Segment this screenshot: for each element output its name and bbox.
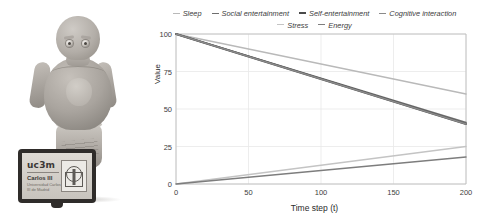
tablet-text-block: uc3m Carlos III Universidad Carlos III d… <box>22 160 61 192</box>
y-tick-100: 100 <box>150 30 172 39</box>
x-axis-ticks: 050100150200 <box>150 188 479 200</box>
y-tick-75: 75 <box>150 68 172 77</box>
x-axis-label: Time step (t) <box>150 203 479 213</box>
robot-right-eye <box>82 40 89 47</box>
robot-tablet: uc3m Carlos III Universidad Carlos III d… <box>18 149 96 203</box>
robot-left-pupil <box>68 42 71 45</box>
robot-chest-panel <box>66 78 92 106</box>
plot-area-wrapper: Value 0255075100 050100150200 Time step … <box>150 0 479 224</box>
y-tick-50: 50 <box>150 105 172 114</box>
figure-root: uc3m Carlos III Universidad Carlos III d… <box>0 0 479 224</box>
uc3m-logo-text: uc3m <box>27 160 61 170</box>
social-robot-photo: uc3m Carlos III Universidad Carlos III d… <box>0 0 150 224</box>
carlos-iii-text: Carlos III <box>27 175 61 181</box>
line-chart: SleepSocial entertainmentSelf-entertainm… <box>150 0 479 224</box>
emblem-figure <box>73 169 76 185</box>
university-subtitle: Universidad Carlos III de Madrid <box>27 182 61 192</box>
robot-body <box>44 58 112 130</box>
tablet-divider <box>27 172 59 173</box>
robot-right-brow <box>81 35 91 39</box>
vitruvian-man-emblem-icon <box>61 160 87 192</box>
robot-illustration: uc3m Carlos III Universidad Carlos III d… <box>0 0 150 224</box>
y-tick-25: 25 <box>150 143 172 152</box>
robot-left-eye <box>66 40 73 47</box>
tablet-screen: uc3m Carlos III Universidad Carlos III d… <box>22 153 92 199</box>
x-tick-100: 100 <box>315 188 328 197</box>
x-tick-150: 150 <box>387 188 400 197</box>
robot-right-pupil <box>84 42 87 45</box>
x-tick-50: 50 <box>244 188 252 197</box>
x-tick-200: 200 <box>460 188 473 197</box>
x-tick-0: 0 <box>174 188 178 197</box>
tablet-stand <box>51 203 63 208</box>
robot-head <box>56 16 100 60</box>
